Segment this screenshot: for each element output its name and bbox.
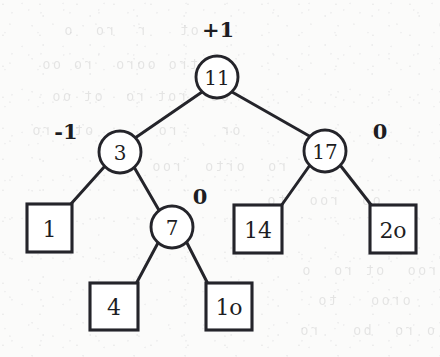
tree-edge (281, 165, 310, 206)
balance-factor-label: 0 (193, 184, 208, 209)
node-value-label: 11 (204, 66, 229, 90)
balance-factor-label: 0 (373, 119, 388, 144)
tree-edge (340, 165, 372, 206)
node-value-label: 17 (312, 140, 337, 164)
internal-node: 11 (196, 56, 238, 98)
leaf-value-label: 1 (43, 217, 57, 242)
node-value-label: 7 (166, 216, 179, 240)
tree-edge (232, 92, 311, 137)
leaf-node: 2o (370, 205, 416, 253)
edge-layer (70, 92, 372, 284)
tree-edge (134, 167, 160, 212)
internal-node: 7 (151, 206, 193, 248)
node-value-label: 3 (114, 141, 127, 165)
leaf-value-label: 14 (244, 218, 272, 243)
balance-factor-label: +1 (202, 17, 234, 42)
leaf-node: 4 (90, 283, 138, 330)
internal-node: 17 (304, 130, 346, 172)
balance-factor-layer: +1-100 (54, 17, 387, 209)
leaf-node-layer: 1142o41o (27, 204, 416, 330)
leaf-value-label: 4 (107, 295, 121, 320)
leaf-value-label: 2o (379, 218, 406, 243)
internal-node-layer: 113177 (99, 56, 346, 248)
tree-edge (70, 166, 105, 205)
tree-edge (136, 241, 159, 284)
avl-tree-diagram: o ot r ro ootro ooro ro oooo rot ro ot o… (0, 0, 440, 357)
tree-canvas: 1142o41o 113177 +1-100 (0, 0, 440, 357)
leaf-value-label: 1o (215, 295, 242, 320)
balance-factor-label: -1 (54, 119, 77, 144)
leaf-node: 1 (27, 204, 72, 252)
tree-edge (135, 92, 202, 138)
leaf-node: 1o (206, 283, 252, 330)
internal-node: 3 (99, 131, 141, 173)
tree-edge (186, 241, 208, 284)
leaf-node: 14 (234, 205, 282, 253)
